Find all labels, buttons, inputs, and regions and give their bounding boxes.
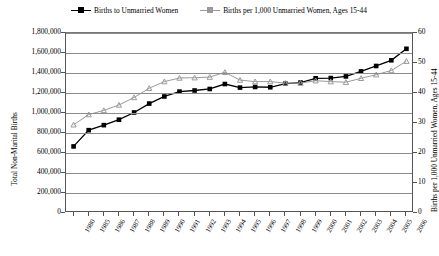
y-axis-left-tick bbox=[61, 52, 65, 53]
y-axis-right-tick-label: 40 bbox=[418, 87, 425, 96]
x-axis-tick-label: 1987 bbox=[128, 218, 142, 234]
data-point-marker-square bbox=[71, 144, 76, 149]
x-axis-tick-label: 1996 bbox=[264, 218, 278, 234]
x-axis-tick bbox=[345, 212, 346, 216]
y-axis-right-tick bbox=[413, 92, 417, 93]
x-axis-tick bbox=[194, 212, 195, 216]
y-axis-left-tick-label: 1,600,000 bbox=[31, 47, 61, 56]
x-axis-tick bbox=[239, 212, 240, 216]
y-axis-right-tick-label: 30 bbox=[418, 117, 425, 126]
x-axis-tick-label: 1990 bbox=[173, 218, 187, 234]
x-axis-tick-label: 1991 bbox=[188, 218, 202, 234]
plot-area bbox=[65, 32, 413, 212]
y-axis-right-tick bbox=[413, 62, 417, 63]
y-axis-left-tick bbox=[61, 112, 65, 113]
gridline bbox=[66, 133, 412, 134]
series-container bbox=[66, 33, 414, 213]
x-axis-tick-label: 2005 bbox=[400, 218, 414, 234]
legend-marker-triangle-icon bbox=[200, 6, 220, 15]
x-axis-tick-label: 2004 bbox=[385, 218, 399, 234]
legend-label-births-rate: Births per 1,000 Unmarried Women, Ages 1… bbox=[223, 6, 367, 15]
x-axis-tick bbox=[405, 212, 406, 216]
legend-marker-square-icon bbox=[71, 6, 91, 15]
y-axis-left-tick-label: 1,400,000 bbox=[31, 67, 61, 76]
x-axis-tick bbox=[254, 212, 255, 216]
gridline bbox=[66, 93, 412, 94]
x-axis-tick-label: 1985 bbox=[98, 218, 112, 234]
data-point-marker-square bbox=[238, 85, 243, 90]
x-axis-tick bbox=[224, 212, 225, 216]
x-axis-tick bbox=[209, 212, 210, 216]
x-axis-tick-label: 1995 bbox=[249, 218, 263, 234]
y-axis-left-tick bbox=[61, 212, 65, 213]
data-point-marker-square bbox=[268, 85, 273, 90]
data-point-marker-square bbox=[344, 74, 349, 79]
data-point-marker-square bbox=[389, 58, 394, 63]
data-point-marker-square bbox=[374, 64, 379, 69]
y-axis-left-title: Total Non-Marital Births bbox=[10, 112, 19, 186]
x-axis-tick-label: 1993 bbox=[219, 218, 233, 234]
x-axis-tick bbox=[178, 212, 179, 216]
x-axis-tick-label: 1994 bbox=[234, 218, 248, 234]
x-axis-tick-label: 2000 bbox=[325, 218, 339, 234]
y-axis-left-tick bbox=[61, 32, 65, 33]
data-point-marker-square bbox=[102, 123, 107, 128]
x-axis-tick bbox=[148, 212, 149, 216]
data-point-marker-square bbox=[162, 94, 167, 99]
x-axis-tick bbox=[360, 212, 361, 216]
x-axis-tick bbox=[375, 212, 376, 216]
y-axis-left-tick bbox=[61, 192, 65, 193]
gridline bbox=[66, 33, 412, 34]
y-axis-left-tick bbox=[61, 152, 65, 153]
y-axis-right-tick bbox=[413, 182, 417, 183]
x-axis-tick bbox=[133, 212, 134, 216]
y-axis-left-tick bbox=[61, 172, 65, 173]
gridline bbox=[66, 53, 412, 54]
y-axis-left-tick-label: 400,000 bbox=[37, 167, 61, 176]
y-axis-left-tick-label: 600,000 bbox=[37, 147, 61, 156]
y-axis-right-tick bbox=[413, 152, 417, 153]
legend-label-births-total: Births to Unmarried Women bbox=[94, 6, 178, 15]
y-axis-left-tick-label: 200,000 bbox=[37, 187, 61, 196]
data-point-marker-square bbox=[253, 85, 258, 90]
legend-item-births-rate: Births per 1,000 Unmarried Women, Ages 1… bbox=[200, 6, 367, 15]
y-axis-right-tick-label: 60 bbox=[418, 27, 425, 36]
x-axis-tick-label: 1997 bbox=[279, 218, 293, 234]
y-axis-left-tick-label: 800,000 bbox=[37, 127, 61, 136]
y-axis-left-tick bbox=[61, 132, 65, 133]
data-point-marker-square bbox=[223, 82, 228, 87]
y-axis-right-tick-label: 10 bbox=[418, 177, 425, 186]
gridline bbox=[66, 193, 412, 194]
x-axis-tick bbox=[88, 212, 89, 216]
data-point-marker-square bbox=[404, 47, 409, 52]
x-axis-tick-label: 2003 bbox=[370, 218, 384, 234]
x-axis-tick bbox=[73, 212, 74, 216]
y-axis-right-tick bbox=[413, 212, 417, 213]
y-axis-right-tick bbox=[413, 32, 417, 33]
chart-legend: Births to Unmarried Women Births per 1,0… bbox=[0, 3, 438, 17]
x-axis-tick bbox=[103, 212, 104, 216]
y-axis-right-tick bbox=[413, 122, 417, 123]
x-axis-tick-label: 1980 bbox=[83, 218, 97, 234]
legend-item-births-total: Births to Unmarried Women bbox=[71, 6, 178, 15]
gridline bbox=[66, 73, 412, 74]
y-axis-left-tick bbox=[61, 72, 65, 73]
y-axis-left-tick bbox=[61, 92, 65, 93]
data-point-marker-triangle bbox=[404, 59, 409, 64]
gridline bbox=[66, 153, 412, 154]
x-axis-tick-label: 1986 bbox=[113, 218, 127, 234]
x-axis-tick bbox=[118, 212, 119, 216]
y-axis-right-tick-label: 50 bbox=[418, 57, 425, 66]
x-axis-tick-label: 1998 bbox=[294, 218, 308, 234]
data-point-marker-square bbox=[147, 101, 152, 106]
data-point-marker-square bbox=[117, 117, 122, 122]
gridline bbox=[66, 113, 412, 114]
x-axis-tick-label: 2006 bbox=[415, 218, 429, 234]
y-axis-right-tick-label: 0 bbox=[418, 207, 422, 216]
x-axis-tick bbox=[300, 212, 301, 216]
x-axis-tick bbox=[390, 212, 391, 216]
gridline bbox=[66, 173, 412, 174]
data-point-marker-square bbox=[207, 87, 212, 92]
x-axis-tick bbox=[315, 212, 316, 216]
